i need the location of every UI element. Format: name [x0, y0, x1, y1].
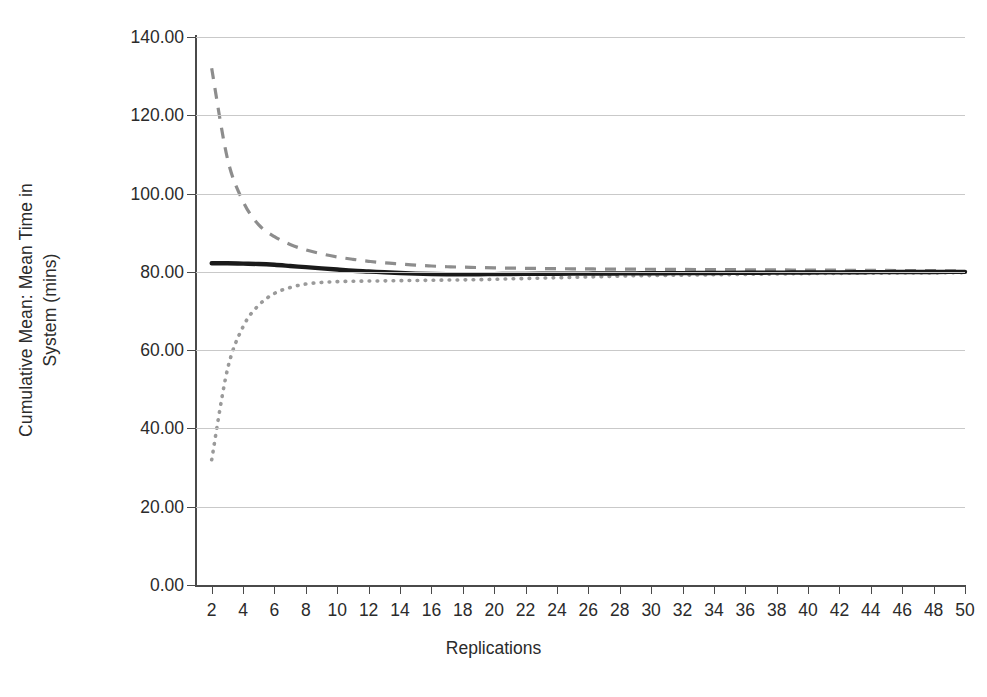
x-tick-label: 4	[238, 600, 248, 621]
y-axis-title-line-2: System (mins)	[38, 183, 62, 437]
x-tick-mark	[494, 585, 495, 594]
x-tick-label: 44	[861, 600, 880, 621]
y-tick-mark	[187, 585, 196, 586]
x-tick-mark	[683, 585, 684, 594]
x-tick-label: 2	[207, 600, 217, 621]
y-tick-mark	[187, 115, 196, 116]
x-tick-label: 42	[830, 600, 849, 621]
x-tick-label: 50	[955, 600, 974, 621]
y-axis-tick-labels: 0.0020.0040.0060.0080.00100.00120.00140.…	[70, 0, 192, 620]
x-tick-mark	[306, 585, 307, 594]
y-tick-mark	[187, 350, 196, 351]
x-tick-mark	[714, 585, 715, 594]
x-tick-label: 10	[328, 600, 347, 621]
chart-container: Cumulative Mean: Mean Time in System (mi…	[0, 0, 987, 697]
x-tick-mark	[400, 585, 401, 594]
gridline	[196, 115, 965, 116]
x-tick-label: 12	[359, 600, 378, 621]
x-tick-mark	[651, 585, 652, 594]
gridline	[196, 272, 965, 273]
x-tick-mark	[620, 585, 621, 594]
x-tick-label: 38	[767, 600, 786, 621]
y-axis-title: Cumulative Mean: Mean Time in System (mi…	[6, 0, 70, 620]
y-axis-title-line-1: Cumulative Mean: Mean Time in	[14, 183, 38, 437]
y-tick-mark	[187, 37, 196, 38]
x-tick-mark	[588, 585, 589, 594]
y-tick-mark	[187, 507, 196, 508]
gridline	[196, 428, 965, 429]
x-tick-label: 8	[301, 600, 311, 621]
y-tick-label: 120.00	[130, 105, 184, 126]
x-tick-label: 26	[579, 600, 598, 621]
x-tick-label: 36	[736, 600, 755, 621]
x-tick-mark	[243, 585, 244, 594]
x-tick-mark	[463, 585, 464, 594]
y-tick-mark	[187, 272, 196, 273]
y-tick-label: 140.00	[130, 27, 184, 48]
series-line-upper-ci	[212, 68, 965, 271]
x-tick-mark	[369, 585, 370, 594]
x-tick-label: 32	[673, 600, 692, 621]
x-tick-mark	[431, 585, 432, 594]
series-line-lower-ci	[212, 273, 965, 460]
x-tick-label: 18	[453, 600, 472, 621]
y-tick-label: 20.00	[140, 496, 184, 517]
y-tick-mark	[187, 428, 196, 429]
x-tick-mark	[745, 585, 746, 594]
x-axis-line	[195, 585, 966, 587]
x-tick-mark	[777, 585, 778, 594]
x-tick-mark	[902, 585, 903, 594]
y-tick-label: 80.00	[140, 261, 184, 282]
x-tick-mark	[274, 585, 275, 594]
gridline	[196, 37, 965, 38]
x-tick-mark	[934, 585, 935, 594]
x-tick-mark	[871, 585, 872, 594]
x-tick-label: 40	[798, 600, 817, 621]
y-tick-label: 0.00	[150, 575, 184, 596]
x-tick-mark	[839, 585, 840, 594]
gridline	[196, 350, 965, 351]
gridline	[196, 507, 965, 508]
gridline	[196, 194, 965, 195]
x-tick-label: 22	[516, 600, 535, 621]
x-tick-label: 28	[610, 600, 629, 621]
x-tick-mark	[557, 585, 558, 594]
x-tick-label: 34	[704, 600, 723, 621]
x-tick-mark	[808, 585, 809, 594]
x-tick-label: 30	[641, 600, 660, 621]
y-tick-label: 40.00	[140, 418, 184, 439]
x-tick-label: 24	[547, 600, 566, 621]
y-tick-label: 100.00	[130, 183, 184, 204]
x-tick-label: 46	[892, 600, 911, 621]
x-tick-label: 48	[924, 600, 943, 621]
x-tick-label: 16	[422, 600, 441, 621]
y-tick-mark	[187, 194, 196, 195]
x-tick-mark	[526, 585, 527, 594]
x-tick-label: 20	[484, 600, 503, 621]
x-tick-label: 14	[390, 600, 409, 621]
x-tick-mark	[212, 585, 213, 594]
y-tick-label: 60.00	[140, 340, 184, 361]
x-tick-mark	[337, 585, 338, 594]
x-tick-mark	[965, 585, 966, 594]
plot-area	[196, 37, 965, 585]
x-tick-label: 6	[270, 600, 280, 621]
series-lines	[196, 37, 965, 585]
x-axis-title: Replications	[0, 638, 987, 659]
